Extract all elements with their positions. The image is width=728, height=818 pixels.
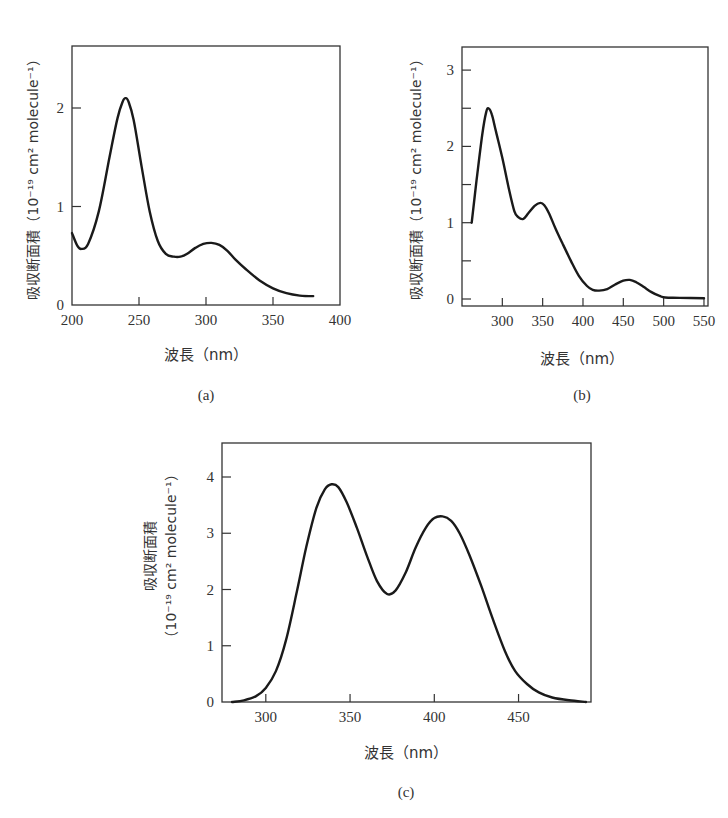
plot-frame-a (72, 46, 340, 305)
panel-label-c: (c) (398, 784, 415, 801)
y-axis-unit-c: （10⁻¹⁹ cm² molecule⁻¹） (163, 467, 179, 644)
panel-label-b: (b) (573, 387, 591, 404)
y-axis-label-c: 吸収断面積 (142, 521, 158, 591)
chart-a: 200250300350400012 吸収断面積（10⁻¹⁹ cm² molec… (25, 46, 351, 404)
ticks-b (462, 70, 704, 306)
chart-c: 30035040045001234 吸収断面積 （10⁻¹⁹ cm² molec… (142, 443, 591, 801)
x-axis-label-a: 波長（nm） (164, 346, 248, 364)
x-tick-label: 400 (423, 709, 446, 725)
y-axis-label-b: 吸収断面積（10⁻¹⁹ cm² molecule⁻¹） (408, 52, 424, 299)
y-tick-label: 0 (207, 694, 215, 710)
x-tick-label: 400 (329, 312, 352, 328)
y-tick-label: 1 (57, 199, 65, 215)
y-tick-label: 1 (447, 215, 455, 231)
y-tick-label: 1 (207, 638, 215, 654)
absorption-curve-c (232, 484, 586, 702)
x-tick-label: 300 (195, 312, 218, 328)
x-tick-label: 350 (262, 312, 285, 328)
tick-labels-a: 200250300350400012 (57, 100, 352, 328)
y-tick-label: 4 (207, 469, 215, 485)
ticks-c (222, 477, 519, 702)
y-tick-label: 0 (57, 297, 65, 313)
x-tick-label: 450 (612, 313, 635, 329)
y-axis-label-a: 吸収断面積（10⁻¹⁹ cm² molecule⁻¹） (25, 52, 41, 299)
x-tick-label: 500 (652, 313, 675, 329)
x-tick-label: 350 (531, 313, 554, 329)
x-tick-label: 300 (491, 313, 514, 329)
y-tick-label: 2 (207, 582, 215, 598)
ticks-a (72, 108, 273, 305)
x-tick-label: 300 (255, 709, 278, 725)
x-axis-label-c: 波長（nm） (364, 744, 448, 762)
x-tick-label: 250 (128, 312, 151, 328)
x-tick-label: 550 (693, 313, 716, 329)
x-tick-label: 350 (339, 709, 362, 725)
y-tick-label: 0 (447, 291, 455, 307)
y-tick-label: 3 (447, 62, 455, 78)
x-tick-label: 450 (507, 709, 530, 725)
figure-canvas: 200250300350400012 吸収断面積（10⁻¹⁹ cm² molec… (0, 0, 728, 818)
y-tick-label: 2 (57, 100, 65, 116)
y-tick-label: 3 (207, 525, 215, 541)
absorption-curve-a (72, 98, 313, 296)
x-tick-label: 400 (572, 313, 595, 329)
tick-labels-c: 30035040045001234 (207, 469, 530, 725)
x-axis-label-b: 波長（nm） (540, 350, 624, 368)
chart-b: 3003504004505005500123 吸収断面積（10⁻¹⁹ cm² m… (408, 47, 715, 404)
y-tick-label: 2 (447, 138, 455, 154)
tick-labels-b: 3003504004505005500123 (447, 62, 716, 329)
plot-frame-b (462, 47, 708, 306)
panel-label-a: (a) (198, 387, 215, 404)
absorption-curve-b (472, 108, 704, 298)
x-tick-label: 200 (61, 312, 84, 328)
